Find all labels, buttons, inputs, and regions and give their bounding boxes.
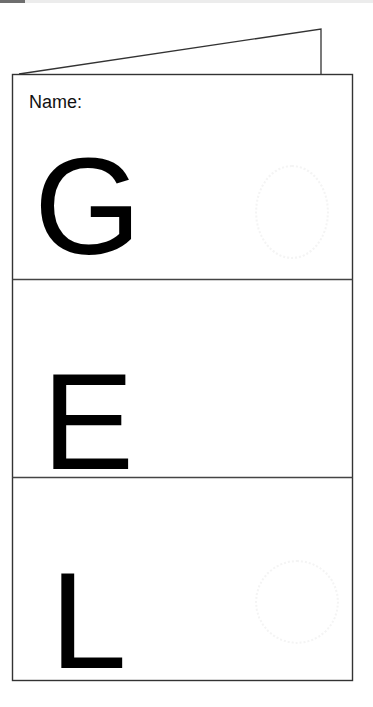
ghost-mark-2	[255, 560, 339, 644]
name-label: Name:	[29, 93, 82, 111]
ghost-mark-1	[255, 165, 329, 259]
panel-letter-3: L	[50, 551, 127, 689]
panel-letter-2: E	[42, 352, 134, 490]
panel-letter-1: G	[34, 137, 141, 275]
back-flap-outline	[19, 29, 321, 74]
